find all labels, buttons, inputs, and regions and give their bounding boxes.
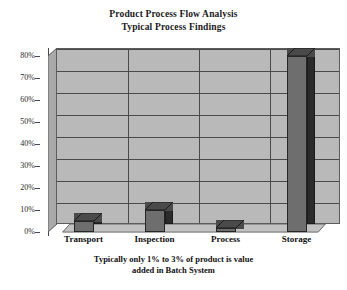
bar-front-face [145, 210, 165, 232]
x-tick-label-process: Process [186, 234, 266, 244]
y-axis: 80%70%60%50%40%30%20%10%0% [0, 44, 40, 234]
y-tick-label: 0% [24, 228, 35, 236]
bar-process [216, 228, 236, 232]
y-tick-label: 40% [20, 140, 35, 148]
y-tick-label: 20% [20, 184, 35, 192]
chart-caption: Typically only 1% to 3% of product is va… [0, 254, 347, 276]
bar-storage [287, 56, 307, 232]
bar-inspection [145, 210, 165, 232]
chart-subtitle: Typical Process Findings [0, 21, 347, 34]
y-tick-label: 10% [20, 206, 35, 214]
chart-title: Product Process Flow Analysis [0, 8, 347, 21]
chart-title-block: Product Process Flow Analysis Typical Pr… [0, 8, 347, 34]
y-tick-label: 70% [20, 74, 35, 82]
x-axis: TransportInspectionProcessStorage [40, 234, 340, 250]
y-tick-label: 50% [20, 118, 35, 126]
caption-line-1: Typically only 1% to 3% of product is va… [0, 254, 347, 265]
bar-side-face [307, 48, 315, 224]
y-tick-label: 80% [20, 52, 35, 60]
y-tick-label: 60% [20, 96, 35, 104]
bar-front-face [74, 221, 94, 232]
caption-line-2: added in Batch System [0, 265, 347, 276]
y-tick-label: 30% [20, 162, 35, 170]
x-tick-label-transport: Transport [44, 234, 124, 244]
chart-container: Product Process Flow Analysis Typical Pr… [0, 0, 347, 290]
bar-front-face [287, 56, 307, 232]
x-tick-label-storage: Storage [257, 234, 337, 244]
bar-front-face [216, 228, 236, 232]
bar-transport [74, 221, 94, 232]
x-tick-label-inspection: Inspection [115, 234, 195, 244]
bar-series [40, 44, 340, 234]
